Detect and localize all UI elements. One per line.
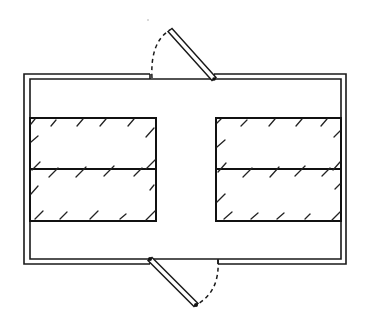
top-door-hinge bbox=[212, 77, 216, 81]
right-lower-block bbox=[216, 169, 341, 221]
bottom-door bbox=[148, 257, 218, 307]
right-block-stack bbox=[216, 118, 341, 221]
top-door-swing-arc bbox=[152, 30, 170, 78]
speck bbox=[147, 19, 148, 20]
floor-plan-diagram bbox=[0, 0, 367, 334]
bottom-door-swing-arc bbox=[196, 260, 218, 305]
top-door-leaf bbox=[168, 29, 216, 81]
top-door bbox=[152, 29, 216, 81]
left-upper-block bbox=[30, 118, 156, 169]
right-upper-block bbox=[216, 118, 341, 169]
bottom-door-leaf bbox=[148, 258, 198, 307]
bottom-door-hinge bbox=[148, 257, 152, 261]
left-block-stack bbox=[30, 118, 156, 221]
